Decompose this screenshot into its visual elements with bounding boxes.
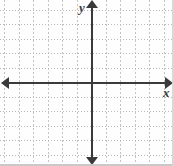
grid-line-horizontal <box>0 68 174 69</box>
y-axis-up-arrow-icon <box>86 0 98 8</box>
grid-line-horizontal <box>0 24 174 25</box>
grid-line-horizontal <box>0 10 174 11</box>
y-axis-label: y <box>79 1 85 14</box>
grid-line-horizontal <box>0 111 174 112</box>
x-axis <box>7 82 167 84</box>
grid-line-horizontal <box>0 155 174 156</box>
page-edge-right <box>172 0 174 166</box>
y-axis <box>91 5 93 160</box>
grid-line-horizontal <box>0 140 174 141</box>
grid-line-horizontal <box>0 97 174 98</box>
x-axis-label: x <box>163 86 170 99</box>
x-axis-left-arrow-icon <box>1 77 9 89</box>
grid-line-horizontal <box>0 53 174 54</box>
grid-line-horizontal <box>0 126 174 127</box>
grid-line-horizontal <box>0 39 174 40</box>
page-edge-bottom <box>0 164 174 166</box>
coordinate-plane-figure: y x <box>0 0 174 166</box>
